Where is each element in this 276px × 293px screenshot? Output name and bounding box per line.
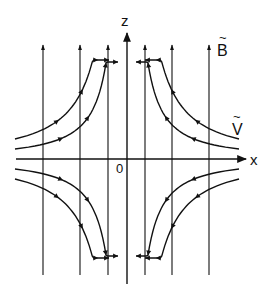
- flow-arrowhead: [136, 60, 141, 65]
- flow-line: [136, 169, 239, 256]
- flow-arrowhead: [93, 58, 98, 63]
- flow-line: [15, 60, 109, 139]
- origin-label: 0: [116, 161, 123, 176]
- x-axis-label: x: [250, 151, 258, 168]
- flow-arrowhead: [113, 60, 118, 65]
- axes: [16, 33, 246, 284]
- flow-line: [15, 179, 109, 258]
- flow-arrowhead: [156, 256, 161, 261]
- field-label: B: [217, 42, 228, 59]
- flow-label: V: [232, 121, 243, 138]
- magnetic-field-lines: [43, 45, 209, 275]
- z-axis-label: z: [121, 12, 129, 29]
- x-point-diagram: z x 0 ~ B ~ V: [0, 0, 276, 293]
- flow-arrowhead: [136, 254, 141, 259]
- flow-line: [15, 169, 118, 256]
- flow-line: [145, 60, 239, 139]
- flow-arrowhead: [113, 254, 118, 259]
- flow-line: [15, 62, 118, 149]
- flow-line: [136, 62, 239, 149]
- flow-arrowhead: [156, 58, 161, 63]
- flow-line: [145, 179, 239, 258]
- flow-arrowhead: [93, 256, 98, 261]
